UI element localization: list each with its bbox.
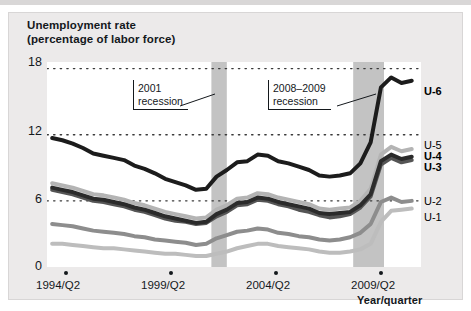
- series-label-u1: U-1: [424, 212, 442, 223]
- x-tick-dot-1994: [64, 271, 68, 275]
- series-label-u3: U-3: [424, 162, 442, 173]
- x-tick-dot-2009: [379, 271, 383, 275]
- unemployment-rate-chart-figure: Unemployment rate (percentage of labor f…: [0, 0, 471, 311]
- chart-title-line2: (percentage of labor force): [27, 32, 327, 46]
- x-tick-label-2009: 2009/Q2: [351, 279, 395, 291]
- x-tick-dot-1999: [169, 271, 173, 275]
- callout-2008-line2: recession: [273, 95, 326, 108]
- callout-2001-line1: 2001: [138, 82, 183, 95]
- callout-2001-leader-line: [180, 93, 216, 107]
- callout-2001-line2: recession: [138, 95, 183, 108]
- chart-title-line1: Unemployment rate: [27, 18, 327, 32]
- callout-2008-2009-recession: 2008–2009 recession: [268, 80, 331, 110]
- x-tick-dot-2004: [274, 271, 278, 275]
- series-label-u6: U-6: [424, 86, 442, 97]
- x-tick-label-2004: 2004/Q2: [246, 279, 290, 291]
- x-tick-label-1994: 1994/Q2: [36, 279, 80, 291]
- callout-2008-line1: 2008–2009: [273, 82, 326, 95]
- y-tick-18: 18: [18, 56, 42, 68]
- y-tick-0: 0: [18, 260, 42, 272]
- callout-2008-leader-line: [337, 93, 377, 107]
- x-axis-title: Year/quarter: [357, 294, 422, 306]
- chart-title: Unemployment rate (percentage of labor f…: [27, 18, 327, 46]
- figure-top-rule: [0, 0, 471, 5]
- y-tick-6: 6: [18, 193, 42, 205]
- series-label-u2: U-2: [424, 196, 442, 207]
- y-tick-12: 12: [18, 125, 42, 137]
- x-tick-label-1999: 1999/Q2: [141, 279, 185, 291]
